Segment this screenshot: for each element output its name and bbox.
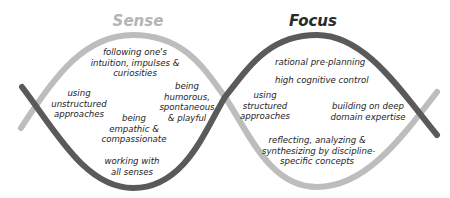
sense-focus-diagram: Sense Focus following one's intuition, i… <box>0 0 450 198</box>
sense-label-empathic: being empathic & compassionate <box>100 113 168 145</box>
focus-label-preplanning: rational pre-planning <box>275 57 365 68</box>
sense-label-senses: working with all senses <box>100 156 164 177</box>
focus-label-structured: using structured approaches <box>238 90 292 122</box>
sense-label-intuition: following one's intuition, impulses & cu… <box>85 47 185 79</box>
sense-title: Sense <box>108 12 168 30</box>
focus-title: Focus <box>283 12 343 30</box>
focus-label-cognitive-control: high cognitive control <box>275 75 365 86</box>
focus-label-reflecting: reflecting, analyzing & synthesizing by … <box>262 135 372 167</box>
focus-label-expertise: building on deep domain expertise <box>330 101 406 122</box>
